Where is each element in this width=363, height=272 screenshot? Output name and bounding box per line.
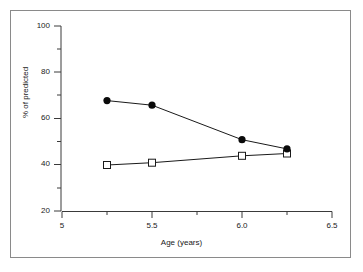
x-tick-label-6p0: 6.0 <box>227 221 257 230</box>
x-tick-label-5: 5 <box>47 221 77 230</box>
x-tick-label-6p5: 6.5 <box>317 221 347 230</box>
marker-open-square <box>239 152 246 159</box>
x-tick-label-5p5: 5.5 <box>137 221 167 230</box>
marker-filled-circle <box>238 136 245 143</box>
marker-filled-circle <box>148 102 155 109</box>
y-tick-label-20: 20 <box>26 206 50 215</box>
marker-filled-circle <box>103 97 110 104</box>
marker-open-square <box>104 162 111 169</box>
y-tick-label-100: 100 <box>26 21 50 30</box>
marker-filled-circle <box>283 145 290 152</box>
series-line-open-square <box>107 154 287 166</box>
marker-open-square <box>149 159 156 166</box>
figure: 100 80 60 40 20 5 5.5 6.0 6.5 % of predi… <box>0 0 363 272</box>
y-axis-label: % of predicted <box>21 67 30 118</box>
y-tick-label-40: 40 <box>26 159 50 168</box>
chart-canvas <box>0 0 363 272</box>
series-line-filled-circle <box>107 101 287 149</box>
x-axis-label: Age (years) <box>0 238 363 247</box>
